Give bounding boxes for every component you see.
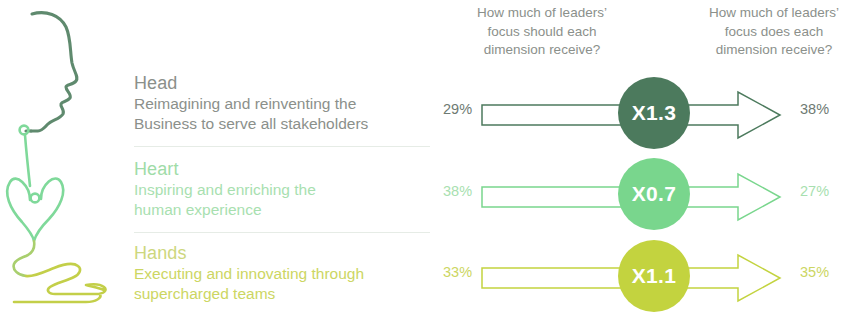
arrow-row-hands: 33% X1.1 35% [440, 241, 850, 312]
multiplier-bubble-hands: X1.1 [618, 240, 690, 312]
question-header-does: How much of leaders’ focus does each dim… [684, 4, 850, 60]
dimension-title-heart: Heart [134, 158, 434, 180]
multiplier-value-head: X1.3 [632, 101, 676, 125]
dimension-desc-heart-line-1: Inspiring and enriching the [134, 180, 434, 200]
multiplier-bubble-heart: X0.7 [618, 158, 690, 230]
dimension-hands: Hands Executing and innovating through s… [134, 242, 434, 304]
does-pct-head: 38% [800, 100, 848, 118]
question-header-should-line-2: focus should each [452, 23, 632, 42]
multiplier-value-heart: X0.7 [632, 182, 676, 206]
question-header-does-line-2: focus does each [684, 23, 850, 42]
line-drawing-svg [0, 0, 135, 312]
dimension-desc-hands: Executing and innovating through superch… [134, 264, 434, 304]
dimension-desc-head-line-1: Reimagining and reinventing the [134, 94, 434, 114]
heart-path [7, 178, 63, 241]
multiplier-bubble-head: X1.3 [618, 77, 690, 149]
does-pct-hands: 35% [800, 263, 848, 281]
dimension-desc-heart: Inspiring and enriching the human experi… [134, 180, 434, 220]
dimension-desc-head-line-2: Business to serve all stakeholders [134, 114, 434, 134]
dimension-desc-hands-line-2: supercharged teams [134, 284, 434, 304]
question-header-should-line-1: How much of leaders’ [452, 4, 632, 23]
question-header-should-line-3: dimension receive? [452, 41, 632, 60]
dimension-list: Head Reimagining and reinventing the Bus… [134, 0, 434, 312]
question-header-does-line-1: How much of leaders’ [684, 4, 850, 23]
arrow-row-heart: 38% X0.7 27% [440, 160, 850, 240]
question-header-should: How much of leaders’ focus should each d… [452, 4, 632, 60]
question-header-does-line-3: dimension receive? [684, 41, 850, 60]
lower-knot-icon [31, 194, 40, 203]
head-profile-path [31, 13, 77, 131]
heart-to-hands-path [14, 241, 35, 276]
infographic-canvas: Head Reimagining and reinventing the Bus… [0, 0, 850, 312]
divider-head-heart [134, 146, 430, 147]
does-pct-heart: 27% [800, 182, 848, 200]
hands-path [14, 264, 106, 302]
divider-heart-hands [134, 232, 430, 233]
dimension-desc-hands-line-1: Executing and innovating through [134, 264, 434, 284]
multiplier-value-hands: X1.1 [632, 264, 676, 288]
dimension-desc-heart-line-2: human experience [134, 200, 434, 220]
dimension-title-hands: Hands [134, 242, 434, 264]
arrow-row-head: 29% X1.3 38% [440, 78, 850, 158]
dimension-heart: Heart Inspiring and enriching the human … [134, 158, 434, 220]
stem-path [25, 135, 30, 186]
dimension-desc-head: Reimagining and reinventing the Business… [134, 94, 434, 134]
head-heart-hands-illustration [0, 0, 135, 312]
dimension-title-head: Head [134, 72, 434, 94]
dimension-head: Head Reimagining and reinventing the Bus… [134, 72, 434, 134]
